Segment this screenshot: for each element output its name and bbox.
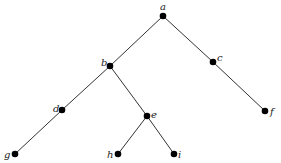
node-e bbox=[144, 113, 151, 120]
edge-c-f bbox=[213, 62, 265, 111]
edge-b-e bbox=[110, 66, 147, 116]
node-i bbox=[171, 151, 178, 158]
node-a bbox=[160, 13, 167, 20]
node-label-h: h bbox=[107, 149, 113, 160]
tree-diagram: abcdefghi bbox=[0, 0, 281, 163]
node-label-f: f bbox=[269, 106, 276, 117]
edge-e-i bbox=[147, 116, 174, 154]
edge-b-d bbox=[62, 66, 110, 110]
edge-a-b bbox=[110, 16, 163, 66]
node-label-c: c bbox=[217, 52, 223, 63]
edges-group bbox=[15, 16, 265, 154]
node-label-i: i bbox=[178, 149, 181, 160]
node-label-e: e bbox=[151, 109, 157, 120]
node-c bbox=[210, 59, 217, 66]
node-label-a: a bbox=[160, 1, 166, 12]
node-label-g: g bbox=[4, 149, 10, 160]
node-f bbox=[262, 108, 269, 115]
nodes-group bbox=[12, 13, 269, 158]
node-label-d: d bbox=[53, 103, 59, 114]
node-g bbox=[12, 151, 19, 158]
node-d bbox=[59, 107, 66, 114]
edge-d-g bbox=[15, 110, 62, 154]
node-h bbox=[115, 151, 122, 158]
node-b bbox=[107, 63, 114, 70]
node-label-b: b bbox=[101, 57, 107, 68]
edge-e-h bbox=[118, 116, 147, 154]
labels-group: abcdefghi bbox=[4, 1, 276, 160]
edge-a-c bbox=[163, 16, 213, 62]
